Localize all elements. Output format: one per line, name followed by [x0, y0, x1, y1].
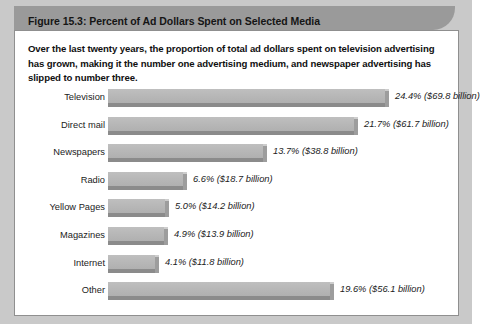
figure-title: Figure 15.3: Percent of Ad Dollars Spent… [28, 13, 458, 30]
category-label: Internet [5, 258, 105, 268]
bar-cap-side [330, 284, 334, 300]
category-label-container: Other [5, 282, 105, 302]
bar-chart: Television24.4% ($69.8 billion)Direct ma… [15, 89, 458, 315]
bar-value-label: 19.6% ($56.1 billion) [340, 284, 425, 294]
bar-face [108, 282, 330, 296]
bar-cap-side [263, 146, 267, 162]
bar-value-label: 4.9% ($13.9 billion) [174, 229, 254, 239]
bar-cap-side [183, 174, 187, 190]
bar-cap-side [354, 119, 358, 135]
bar-face [108, 89, 385, 103]
category-label: Television [5, 92, 105, 102]
bar-shadow [108, 103, 385, 107]
bar-face [108, 172, 183, 186]
bar-value-label: 6.6% ($18.7 billion) [193, 174, 273, 184]
bar-shadow [108, 158, 263, 162]
bar-value-label: 13.7% ($38.8 billion) [273, 146, 358, 156]
category-label-container: Newspapers [5, 144, 105, 164]
bar [108, 199, 165, 219]
bar-shadow [108, 241, 164, 245]
bar-row: Newspapers13.7% ($38.8 billion) [15, 144, 458, 168]
bar-face [108, 199, 165, 213]
bar-row: Radio6.6% ($18.7 billion) [15, 172, 458, 196]
category-label-container: Direct mail [5, 117, 105, 137]
bar-shadow [108, 131, 354, 135]
category-label-container: Radio [5, 172, 105, 192]
bar-row: Television24.4% ($69.8 billion) [15, 89, 458, 113]
bar-face [108, 117, 354, 131]
category-label-container: Internet [5, 255, 105, 275]
category-label-container: Yellow Pages [5, 199, 105, 219]
bar-cap-side [155, 257, 159, 273]
figure-caption: Over the last twenty years, the proporti… [28, 42, 446, 86]
bar-shadow [108, 186, 183, 190]
bar-cap-side [165, 201, 169, 217]
category-label: Radio [5, 175, 105, 185]
bar [108, 255, 155, 275]
bar-cap-side [164, 229, 168, 245]
category-label: Yellow Pages [5, 202, 105, 212]
bar-shadow [108, 269, 155, 273]
bar [108, 227, 164, 247]
bar-row: Other19.6% ($56.1 billion) [15, 282, 458, 306]
bar-face [108, 255, 155, 269]
bar-shadow [108, 213, 165, 217]
bar-value-label: 4.1% ($11.8 billion) [165, 257, 244, 267]
category-label-container: Magazines [5, 227, 105, 247]
bar-shadow [108, 296, 330, 300]
figure-content-card: Over the last twenty years, the proporti… [14, 30, 459, 316]
bar-cap-side [385, 91, 389, 107]
category-label: Magazines [5, 230, 105, 240]
figure-title-bar: Figure 15.3: Percent of Ad Dollars Spent… [14, 6, 455, 30]
bar-value-label: 24.4% ($69.8 billion) [395, 91, 480, 101]
bar-row: Direct mail21.7% ($61.7 billion) [15, 117, 458, 141]
bar [108, 144, 263, 164]
bar [108, 117, 354, 137]
bar [108, 89, 385, 109]
bar-value-label: 5.0% ($14.2 billion) [175, 201, 255, 211]
bar-face [108, 227, 164, 241]
category-label-container: Television [5, 89, 105, 109]
bar-value-label: 21.7% ($61.7 billion) [364, 119, 449, 129]
category-label: Other [5, 285, 105, 295]
bar-row: Yellow Pages5.0% ($14.2 billion) [15, 199, 458, 223]
category-label: Direct mail [5, 120, 105, 130]
bar [108, 172, 183, 192]
bar [108, 282, 330, 302]
figure-container: Figure 15.3: Percent of Ad Dollars Spent… [0, 0, 489, 330]
bar-row: Magazines4.9% ($13.9 billion) [15, 227, 458, 251]
bar-row: Internet4.1% ($11.8 billion) [15, 255, 458, 279]
bar-face [108, 144, 263, 158]
category-label: Newspapers [5, 147, 105, 157]
